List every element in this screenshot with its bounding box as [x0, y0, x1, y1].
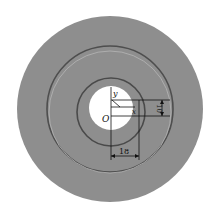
x-axis-label: x	[132, 108, 136, 116]
origin-label: O	[102, 114, 110, 124]
width-dimension: 18	[119, 147, 129, 156]
y-axis-label: y	[112, 89, 118, 98]
disc-diagram: y x O 10 18	[0, 0, 215, 214]
height-dimension: 10	[155, 104, 163, 113]
